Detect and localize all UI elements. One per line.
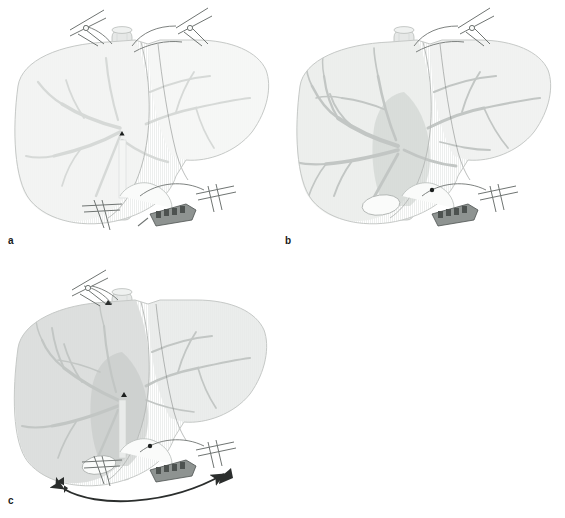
panel-label-a: a (8, 236, 14, 246)
panel-label-b: b (285, 236, 291, 246)
suture-knot-marker-b (430, 188, 434, 192)
suture-knot-marker-c (148, 444, 152, 448)
panel-label-c: c (8, 496, 14, 506)
figure-container: a b c (0, 0, 565, 518)
illustration-canvas (0, 0, 565, 518)
needle-entry-marker-a (119, 131, 126, 198)
